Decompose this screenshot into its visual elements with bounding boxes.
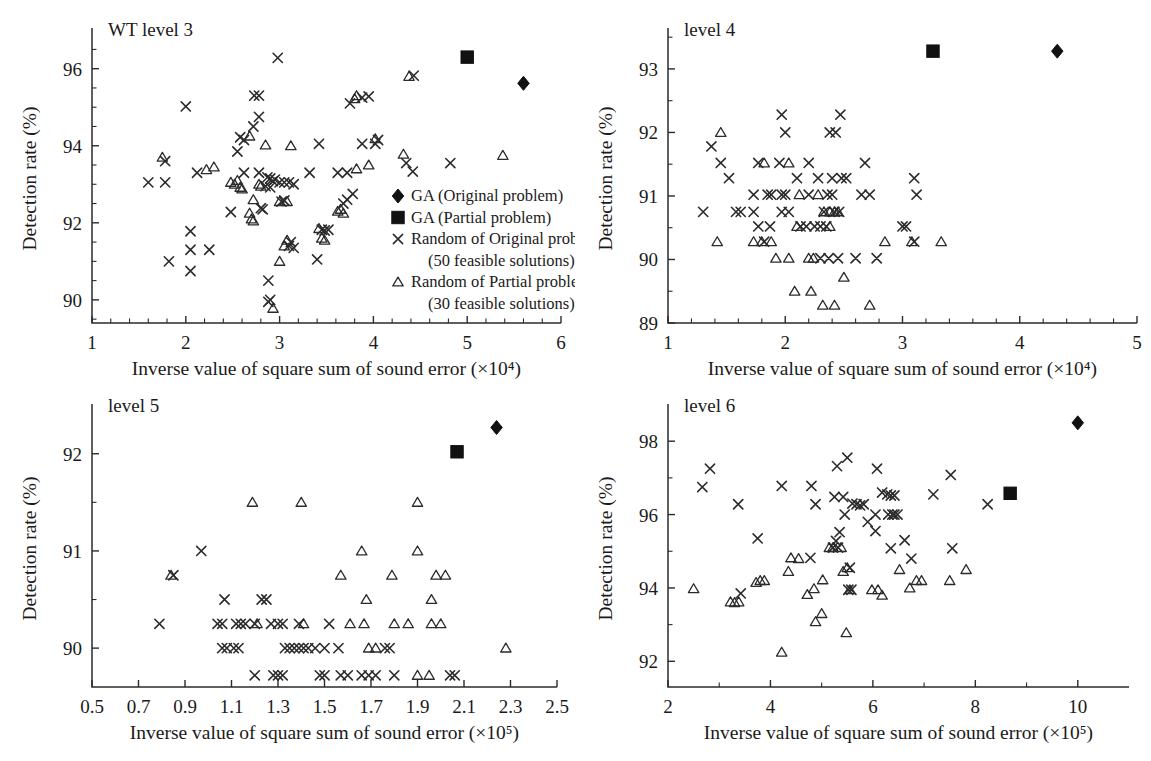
- marker-triangle: [296, 497, 306, 506]
- y-axis-title: Detection rate (%): [19, 106, 41, 250]
- marker-square-filled: [451, 446, 463, 458]
- marker-cross: [241, 619, 250, 628]
- marker-triangle: [398, 149, 408, 158]
- scatter-plot-level-6: 92949698246810level 6Detection rate (%)I…: [576, 380, 1151, 761]
- x-tick-label: 4: [1015, 332, 1025, 353]
- y-tick-label: 92: [63, 213, 82, 234]
- marker-triangle: [412, 670, 422, 679]
- marker-cross: [736, 207, 745, 216]
- marker-cross: [192, 168, 201, 177]
- marker-triangle: [209, 162, 219, 171]
- marker-triangle: [364, 160, 374, 169]
- marker-cross: [186, 245, 195, 254]
- marker-cross: [220, 595, 229, 604]
- x-tick-label: 3: [275, 332, 285, 353]
- marker-triangle: [829, 300, 839, 309]
- marker-cross: [273, 619, 282, 628]
- marker-cross: [313, 255, 322, 264]
- marker-cross: [765, 222, 774, 231]
- x-tick-label: 1.3: [266, 696, 290, 717]
- x-tick-label: 1.7: [359, 696, 383, 717]
- marker-cross: [385, 644, 394, 653]
- series-cross: [144, 53, 455, 306]
- marker-square-filled: [392, 211, 404, 223]
- x-tick-label: 2: [663, 696, 673, 717]
- x-tick-label: 5: [1132, 332, 1142, 353]
- figure-panel-grid: 90929496123456WT level 3Detection rate (…: [0, 0, 1151, 761]
- marker-cross: [294, 644, 303, 653]
- y-tick-label: 96: [639, 505, 658, 526]
- marker-cross: [364, 92, 373, 101]
- marker-triangle: [248, 195, 258, 204]
- marker-cross: [181, 102, 190, 111]
- legend-label: GA (Original problem): [411, 186, 563, 205]
- x-tick-label: 2: [781, 332, 791, 353]
- marker-cross: [218, 619, 227, 628]
- x-tick-label: 6: [556, 332, 566, 353]
- x-tick-label: 1.9: [406, 696, 430, 717]
- marker-triangle: [286, 141, 296, 150]
- marker-cross: [257, 595, 266, 604]
- axis-lines: [92, 404, 557, 687]
- marker-triangle: [426, 595, 436, 604]
- marker-triangle: [716, 128, 726, 137]
- series-square-filled: [927, 45, 939, 57]
- chart-panel-level-6: 92949698246810level 6Detection rate (%)I…: [576, 380, 1151, 761]
- marker-triangle: [336, 570, 346, 579]
- marker-cross: [784, 207, 793, 216]
- x-tick-label: 8: [971, 696, 981, 717]
- x-tick-label: 2.5: [545, 696, 569, 717]
- scatter-plot-level-5: 9091920.50.70.91.11.31.51.71.92.12.32.5l…: [0, 380, 575, 761]
- marker-cross: [806, 553, 815, 562]
- marker-cross: [839, 492, 848, 501]
- marker-cross: [408, 167, 417, 176]
- marker-cross: [232, 619, 241, 628]
- marker-cross: [802, 222, 811, 231]
- marker-triangle: [412, 546, 422, 555]
- x-tick-label: 0.7: [127, 696, 151, 717]
- scatter-plot-level-4: 899091929312345level 4Detection rate (%)…: [576, 0, 1151, 385]
- plot-root: 899091929312345level 4Detection rate (%)…: [595, 19, 1142, 380]
- series-square-filled: [451, 446, 463, 458]
- marker-cross: [724, 174, 733, 183]
- y-tick-label: 90: [63, 638, 82, 659]
- marker-cross: [781, 128, 790, 137]
- x-tick-label: 2.3: [499, 696, 523, 717]
- marker-cross: [836, 110, 845, 119]
- y-tick-label: 92: [639, 122, 658, 143]
- marker-triangle: [839, 272, 849, 281]
- marker-triangle: [412, 497, 422, 506]
- marker-cross: [393, 234, 402, 243]
- marker-triangle: [393, 277, 403, 286]
- marker-cross: [239, 168, 248, 177]
- marker-cross: [816, 254, 825, 263]
- x-tick-label: 4: [766, 696, 776, 717]
- marker-cross: [380, 644, 389, 653]
- marker-cross: [445, 671, 454, 680]
- y-tick-label: 94: [639, 578, 659, 599]
- marker-triangle: [789, 286, 799, 295]
- legend-label: Random of Original problem: [411, 229, 575, 248]
- marker-triangle: [818, 300, 828, 309]
- marker-cross: [299, 644, 308, 653]
- marker-cross: [840, 510, 849, 519]
- marker-triangle: [771, 253, 781, 262]
- marker-triangle: [361, 595, 371, 604]
- marker-cross: [912, 190, 921, 199]
- marker-cross: [343, 168, 352, 177]
- x-axis-title: Inverse value of square sum of sound err…: [132, 358, 521, 380]
- marker-cross: [736, 589, 745, 598]
- plot-root: 92949698246810level 6Detection rate (%)I…: [595, 395, 1129, 744]
- marker-cross: [872, 254, 881, 263]
- x-tick-label: 1: [663, 332, 673, 353]
- y-tick-label: 96: [63, 59, 82, 80]
- marker-cross: [305, 168, 314, 177]
- marker-diamond-filled: [518, 76, 529, 90]
- marker-triangle: [816, 609, 826, 618]
- y-tick-label: 94: [63, 136, 83, 157]
- marker-cross: [290, 644, 299, 653]
- marker-triangle: [357, 546, 367, 555]
- marker-square-filled: [461, 51, 473, 63]
- marker-triangle: [813, 190, 823, 199]
- marker-triangle: [345, 619, 355, 628]
